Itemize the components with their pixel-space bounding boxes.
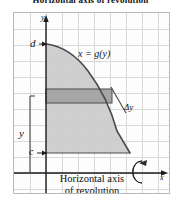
x-axis-label: x [160,174,164,182]
lower-bound-label-c: c [29,147,33,157]
y-measure-bracket [30,96,35,173]
figure-plot-box: y x d c y x = g(y) Δy Horizontal axis of… [13,12,170,194]
representative-strip [46,89,112,103]
page-caption: Horizontal axis of revolution [0,0,181,4]
graph-svg [14,13,169,193]
note-line-2: of revolution [46,185,138,194]
upper-bound-label-d: d [30,38,36,49]
figure-page: Horizontal axis of revolution [0,0,181,203]
grid-and-graph [14,13,169,193]
note-line-1: Horizontal axis [46,173,138,185]
curve-equation-label: x = g(y) [78,49,110,59]
height-label-y: y [19,128,24,139]
y-axis-label: y [41,14,45,22]
delta-y-label: Δy [124,103,133,112]
